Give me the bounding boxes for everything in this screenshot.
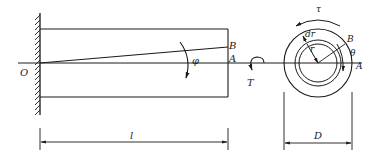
torque-label: T: [247, 77, 255, 88]
point-b-label: B: [228, 40, 236, 51]
diameter-dimension: [284, 92, 352, 150]
twist-angle-label: φ: [192, 55, 199, 66]
fixed-wall: [35, 13, 40, 115]
section-point-b-label: B: [346, 34, 354, 44]
point-a-label: A: [228, 53, 236, 64]
diameter-label: D: [313, 130, 322, 141]
section-angle-label: θ: [350, 48, 356, 58]
origin-label: O: [20, 67, 28, 78]
twisted-generator-line: [40, 47, 228, 63]
twist-angle-arc: [180, 42, 188, 78]
length-label: l: [130, 130, 133, 141]
shear-stress-label: τ: [316, 4, 322, 14]
dr-label: dr: [305, 29, 316, 39]
r-label: r: [310, 44, 315, 54]
shear-stress-arc: [296, 20, 340, 26]
length-dimension: [40, 128, 228, 150]
section-point-a-label: A: [355, 61, 363, 71]
wall-hatching: [35, 15, 40, 115]
torsion-diagram: O B A φ T l τ dr r B θ A D: [0, 0, 375, 157]
cross-section: [284, 20, 352, 97]
